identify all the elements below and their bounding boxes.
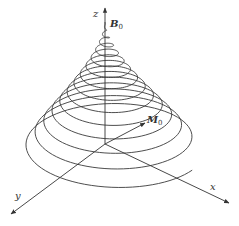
z-axis-label: z bbox=[92, 8, 99, 19]
y-axis-label: y bbox=[14, 190, 21, 201]
b0-label: B0 bbox=[109, 18, 123, 31]
b0-label-main: B bbox=[109, 18, 118, 29]
m0-label-subscript: 0 bbox=[158, 119, 162, 127]
b0-label-subscript: 0 bbox=[118, 23, 122, 31]
m0-label-main: M bbox=[146, 114, 159, 125]
m0-label: M0 bbox=[146, 114, 163, 127]
precession-diagram: z x y B0 M0 bbox=[0, 0, 239, 226]
x-axis bbox=[105, 144, 229, 203]
precession-spiral bbox=[26, 22, 192, 187]
y-axis bbox=[11, 144, 105, 214]
m0-vector-arrow bbox=[105, 123, 145, 144]
x-axis-label: x bbox=[210, 181, 216, 192]
